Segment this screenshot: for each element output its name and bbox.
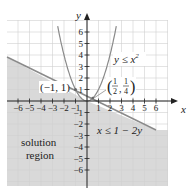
svg-text:(: ( [107,78,112,96]
svg-text:−4: −4 [73,142,83,152]
svg-text:−3: −3 [48,103,58,113]
svg-text:−6: −6 [73,165,83,175]
svg-text:1: 1 [79,85,84,95]
svg-text:4: 4 [124,87,128,96]
svg-text:−2: −2 [59,103,69,113]
svg-text:3: 3 [119,103,124,113]
svg-text:−4: −4 [36,103,46,113]
svg-text:1: 1 [96,103,101,113]
svg-text:2: 2 [79,73,84,83]
svg-text:−5: −5 [73,154,83,164]
line-label: x ≤ 1 − 2y [96,124,142,136]
svg-text:1: 1 [113,77,117,86]
x-axis-arrow-icon [171,98,178,104]
point-marker [74,88,77,91]
svg-text:2: 2 [108,103,113,113]
y-axis-arrow-icon [84,13,90,20]
svg-text:4: 4 [131,103,136,113]
svg-text:5: 5 [142,103,147,113]
x-axis-label: x [180,103,186,115]
svg-text:−5: −5 [25,103,35,113]
solution-region-label: solution region [21,136,59,161]
svg-text:−3: −3 [73,131,83,141]
svg-text:−6: −6 [13,103,23,113]
svg-text:6: 6 [79,27,84,37]
y-axis-label: y [75,9,81,21]
svg-text:2: 2 [113,87,117,96]
inequality-graph: −6−5−4−3−2−1123456654321−1−2−3−4−5−6 y x… [0,0,190,193]
svg-text:−1: −1 [73,108,83,118]
svg-text:,: , [119,83,122,94]
svg-text:4: 4 [79,50,84,60]
point-label-neg1-1: (−1, 1) [40,81,70,94]
svg-text:−2: −2 [73,119,83,129]
svg-text:3: 3 [79,62,84,72]
svg-text:5: 5 [79,39,84,49]
svg-text:): ) [130,78,135,96]
svg-text:6: 6 [154,103,159,113]
svg-text:1: 1 [124,77,128,86]
